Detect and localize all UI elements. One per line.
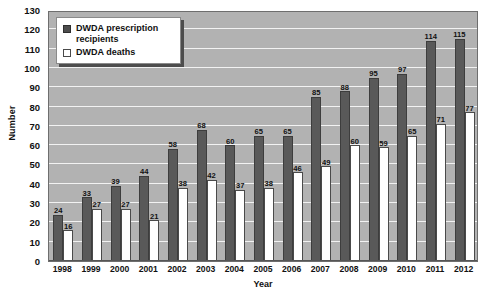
x-tick-label: 2004 [220, 264, 249, 274]
y-tick-label: 110 [10, 45, 40, 55]
bar: 88 [340, 91, 350, 261]
bar-value-label: 65 [408, 128, 416, 137]
bar-value-label: 33 [83, 190, 91, 199]
bar-group: 6538 [250, 12, 279, 261]
x-axis-line [49, 260, 477, 261]
bar: 59 [379, 147, 389, 261]
bar-value-label: 60 [226, 138, 234, 147]
bar-value-label: 114 [425, 33, 437, 42]
bar-value-label: 27 [93, 201, 101, 210]
y-tick-label: 60 [10, 141, 40, 151]
y-tick-label: 70 [10, 122, 40, 132]
x-tick-label: 2005 [249, 264, 278, 274]
bar: 68 [197, 130, 207, 261]
bar: 38 [264, 188, 274, 261]
bar-value-label: 68 [197, 122, 205, 131]
x-tick-label: 1998 [48, 264, 77, 274]
bar-value-label: 65 [255, 128, 263, 137]
bar: 60 [350, 145, 360, 261]
bar-group: 8860 [336, 12, 365, 261]
bar: 39 [111, 186, 121, 261]
bar: 24 [53, 215, 63, 261]
bar-group: 6037 [221, 12, 250, 261]
legend-swatch-deaths-icon [63, 49, 71, 57]
x-tick-label: 2009 [363, 264, 392, 274]
bar-value-label: 58 [169, 141, 177, 150]
legend-item: DWDA prescription recipients [63, 23, 172, 45]
bar: 97 [397, 74, 407, 261]
bar-group: 6546 [278, 12, 307, 261]
x-tick-label: 2012 [449, 264, 478, 274]
x-tick-label: 2006 [277, 264, 306, 274]
bar: 114 [426, 41, 436, 261]
y-tick-label: 20 [10, 219, 40, 229]
y-tick-label: 30 [10, 199, 40, 209]
bar: 71 [436, 124, 446, 261]
legend-item-label: DWDA deaths [76, 47, 135, 58]
x-tick-label: 2003 [191, 264, 220, 274]
bar-value-label: 59 [379, 140, 387, 149]
bar: 60 [225, 145, 235, 261]
legend-item-label: DWDA prescription recipients [76, 23, 172, 45]
bar-group: 6842 [192, 12, 221, 261]
bar: 65 [407, 136, 417, 262]
x-tick-label: 2000 [105, 264, 134, 274]
bar-value-label: 21 [150, 213, 158, 222]
bar-value-label: 115 [453, 31, 465, 40]
bar-value-label: 71 [437, 116, 445, 125]
legend-item: DWDA deaths [63, 47, 172, 58]
bar-value-label: 39 [111, 178, 119, 187]
x-tick-label: 2010 [392, 264, 421, 274]
bar: 33 [82, 197, 92, 261]
y-tick-label: 10 [10, 238, 40, 248]
bar-value-label: 44 [140, 168, 148, 177]
bar-group: 11471 [422, 12, 451, 261]
x-axis-title: Year [48, 279, 478, 289]
bar-value-label: 24 [54, 207, 62, 216]
y-axis-tick-labels: 0102030405060708090100110120130 [10, 0, 40, 299]
x-axis-tick-labels: 1998199920002001200220032004200520062007… [48, 264, 478, 278]
bar-group: 9559 [364, 12, 393, 261]
y-tick-label: 130 [10, 6, 40, 16]
bar-value-label: 77 [465, 105, 473, 114]
bar: 49 [321, 166, 331, 261]
bar: 27 [92, 209, 102, 261]
bar: 27 [121, 209, 131, 261]
bar: 77 [465, 112, 475, 261]
bar: 21 [149, 220, 159, 261]
bar: 58 [168, 149, 178, 261]
bar: 115 [455, 39, 465, 261]
bar-group: 11577 [450, 12, 478, 261]
bar-value-label: 46 [293, 165, 301, 174]
bar-value-label: 60 [351, 138, 359, 147]
x-tick-label: 2002 [163, 264, 192, 274]
bar-value-label: 85 [312, 89, 320, 98]
bar: 44 [139, 176, 149, 261]
bar-value-label: 38 [179, 180, 187, 189]
bar-value-label: 95 [369, 70, 377, 79]
bar: 37 [235, 190, 245, 261]
x-tick-label: 2007 [306, 264, 335, 274]
y-tick-label: 90 [10, 83, 40, 93]
y-tick-label: 40 [10, 180, 40, 190]
bar-value-label: 27 [121, 201, 129, 210]
bar: 65 [283, 136, 293, 262]
y-tick-label: 120 [10, 26, 40, 36]
bar-value-label: 38 [265, 180, 273, 189]
bar: 16 [63, 230, 73, 261]
bar-value-label: 88 [341, 84, 349, 93]
bar: 42 [207, 180, 217, 261]
x-tick-label: 2008 [335, 264, 364, 274]
bar-value-label: 42 [207, 172, 215, 181]
bar-value-label: 37 [236, 182, 244, 191]
x-tick-label: 1999 [77, 264, 106, 274]
bar: 38 [178, 188, 188, 261]
x-tick-label: 2001 [134, 264, 163, 274]
chart-legend: DWDA prescription recipientsDWDA deaths [56, 17, 181, 64]
bar: 85 [311, 97, 321, 261]
bar-group: 8549 [307, 12, 336, 261]
bar-value-label: 16 [64, 223, 72, 232]
y-tick-label: 100 [10, 64, 40, 74]
y-tick-label: 0 [10, 257, 40, 267]
bar-value-label: 49 [322, 159, 330, 168]
